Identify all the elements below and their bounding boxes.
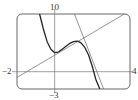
curve-path bbox=[40, 14, 100, 89]
x-max-label: 4 bbox=[132, 67, 137, 76]
series-group bbox=[17, 14, 124, 89]
y-min-label: −3 bbox=[49, 91, 59, 100]
line-2-path bbox=[74, 14, 103, 89]
plot-area bbox=[0, 0, 138, 100]
axes bbox=[12, 9, 133, 93]
x-min-label: −2 bbox=[2, 67, 12, 76]
line-1-path bbox=[17, 14, 124, 77]
y-max-label: 10 bbox=[50, 3, 59, 12]
plot-frame bbox=[17, 14, 130, 89]
